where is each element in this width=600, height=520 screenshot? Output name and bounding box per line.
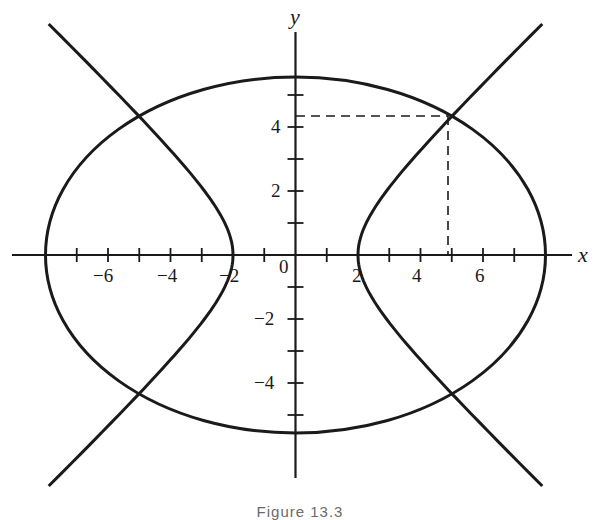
dashed-projection <box>296 116 448 254</box>
y-axis-label: y <box>288 4 300 29</box>
y-tick-label: −4 <box>254 372 275 393</box>
x-tick-label: 2 <box>352 265 362 286</box>
x-tick-label: −4 <box>157 265 178 286</box>
origin-label: 0 <box>279 256 289 277</box>
y-tick-label: −2 <box>254 308 274 329</box>
x-axis-label: x <box>577 242 588 267</box>
x-tick-label: −2 <box>219 265 239 286</box>
y-tick-label: 4 <box>271 116 281 137</box>
x-tick-label: 4 <box>412 265 422 286</box>
y-tick-label: 2 <box>271 180 281 201</box>
figure-caption: Figure 13.3 <box>0 503 600 520</box>
x-tick-label: 6 <box>475 265 485 286</box>
x-tick-label: −6 <box>93 265 113 286</box>
axes <box>12 32 572 478</box>
